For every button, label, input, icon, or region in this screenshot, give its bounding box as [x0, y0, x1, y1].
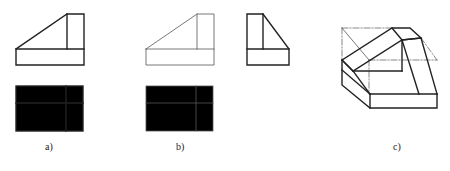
panel-b-label: b)	[176, 141, 184, 152]
panel-b-front-view	[146, 14, 214, 65]
panel-a-front-view	[16, 14, 84, 65]
panel-c-label: c)	[393, 141, 401, 152]
orthographic-projection-figure: a) b) c)	[0, 0, 450, 171]
panel-b-top-view	[146, 86, 213, 131]
panel-a-top-view	[16, 86, 83, 131]
panel-a-label: a)	[45, 141, 53, 152]
panel-c-isometric-view	[342, 28, 437, 108]
panel-b-side-view	[247, 14, 289, 65]
